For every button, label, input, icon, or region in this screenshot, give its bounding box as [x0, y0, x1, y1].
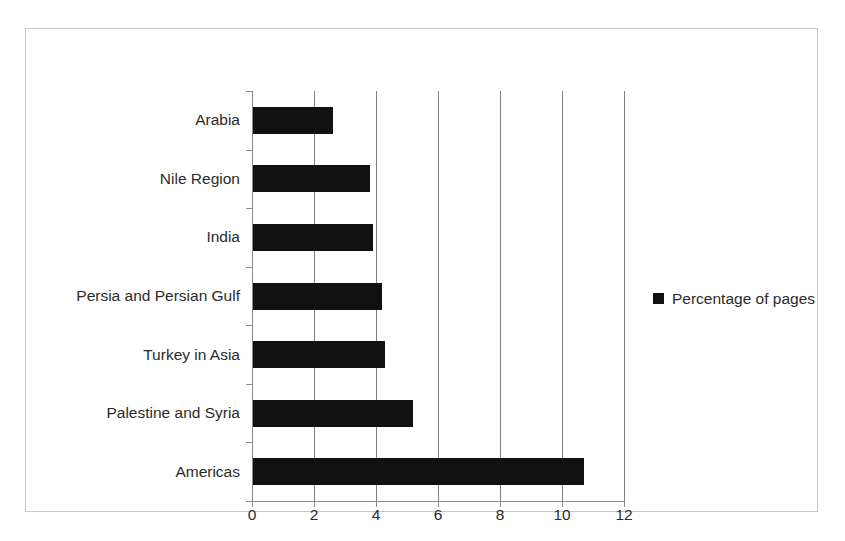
category-label: Turkey in Asia — [143, 347, 240, 363]
x-axis-tick-label: 8 — [480, 507, 520, 523]
category-label: Palestine and Syria — [106, 405, 240, 421]
y-axis-tick — [246, 91, 252, 92]
category-label: Nile Region — [160, 171, 240, 187]
x-axis-tick-label: 4 — [356, 507, 396, 523]
y-axis-tick — [246, 442, 252, 443]
category-label: Americas — [175, 464, 240, 480]
category-label: India — [206, 229, 240, 245]
legend-swatch-icon — [653, 293, 664, 304]
x-axis-tick-label: 6 — [418, 507, 458, 523]
category-label: Arabia — [195, 112, 240, 128]
y-axis-tick — [246, 325, 252, 326]
y-axis-tick — [246, 208, 252, 209]
plot-area — [252, 91, 624, 501]
chart-frame: ArabiaNile RegionIndiaPersia and Persian… — [25, 28, 818, 512]
y-axis-tick — [246, 384, 252, 385]
gridline-8 — [500, 91, 501, 501]
bar — [253, 107, 333, 134]
gridline-6 — [438, 91, 439, 501]
gridline-12 — [624, 91, 625, 501]
category-label: Persia and Persian Gulf — [76, 288, 240, 304]
bar — [253, 458, 584, 485]
legend-label: Percentage of pages — [672, 291, 815, 307]
bar — [253, 224, 373, 251]
x-axis-tick-label: 10 — [542, 507, 582, 523]
bar — [253, 400, 413, 427]
chart-legend: Percentage of pages — [653, 291, 815, 307]
y-axis-tick — [246, 267, 252, 268]
bar — [253, 283, 382, 310]
x-axis-tick-label: 0 — [232, 507, 272, 523]
chart-container: ArabiaNile RegionIndiaPersia and Persian… — [0, 0, 845, 541]
gridline-10 — [562, 91, 563, 501]
y-axis-category-labels: ArabiaNile RegionIndiaPersia and Persian… — [26, 91, 240, 501]
y-axis-tick — [246, 150, 252, 151]
bar — [253, 165, 370, 192]
x-axis-tick-label: 12 — [604, 507, 644, 523]
bar — [253, 341, 385, 368]
x-axis-tick-label: 2 — [294, 507, 334, 523]
